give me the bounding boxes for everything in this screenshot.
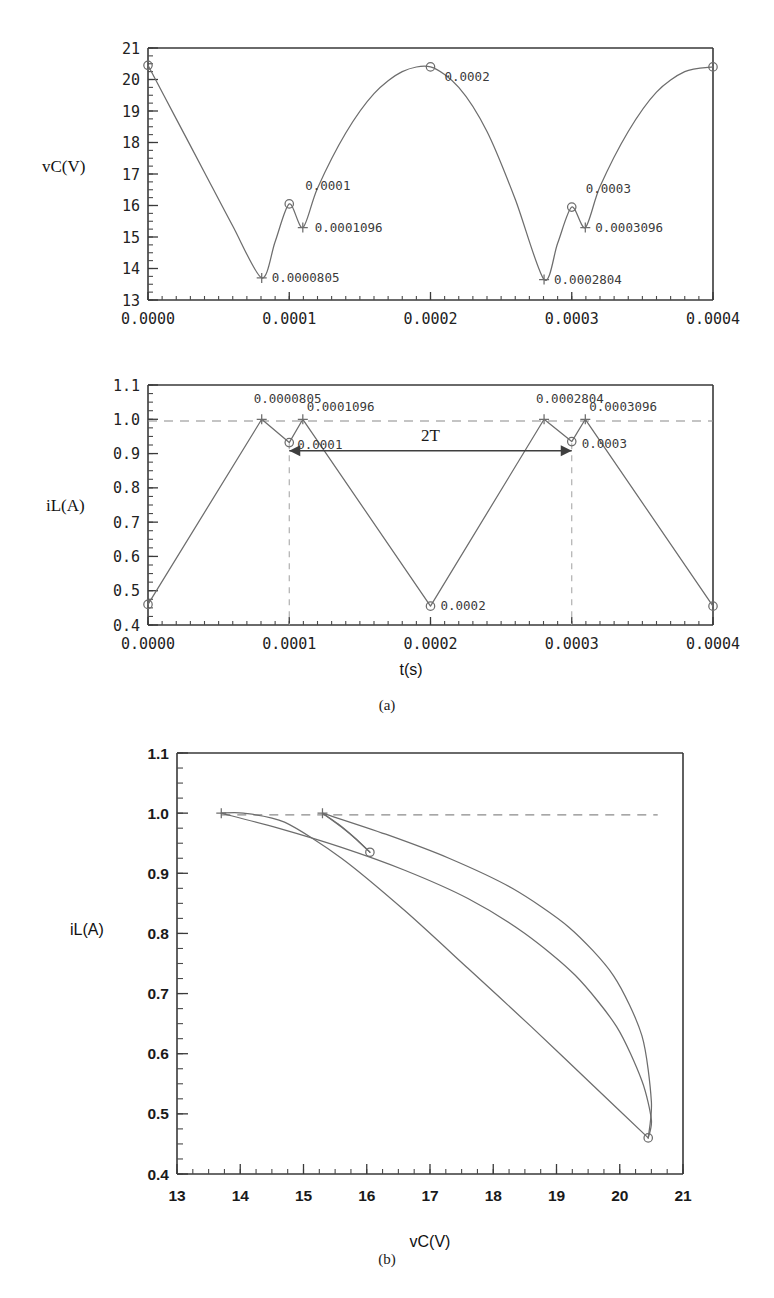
data-point-label: 0.0001 [305,178,350,193]
axis-tick-label: 0.4 [113,617,140,635]
vc-time-xticks: 0.00000.00010.00020.00030.0004 [121,292,740,328]
axis-tick-label: 1.1 [113,377,140,395]
data-point-plus [298,414,308,424]
phase-curve-charge-ramp [221,813,648,1138]
data-point-label: 0.0001 [297,437,342,452]
data-point-label: 0.0003096 [595,220,663,235]
data-point-plus [539,275,549,285]
axis-tick-label: 0.9 [113,445,140,463]
phase-curve-small-loop-down [322,813,369,852]
vc-time-curve-group [148,65,713,280]
axis-tick-label: 0.4 [147,1166,169,1183]
il-time-xlabel: t(s) [399,661,422,678]
axis-tick-label: 17 [122,166,140,184]
data-point-label: 0.0002 [441,598,486,613]
data-point-label: 0.0002804 [554,272,622,287]
axis-tick-label: 0.8 [113,479,140,497]
phase-portrait-svg: 0.40.50.60.70.80.91.01.1 131415161718192… [0,735,774,1265]
axis-tick-label: 0.0002 [403,635,457,653]
axis-tick-label: 0.7 [147,985,169,1002]
chart-il-time: 0.40.50.60.70.80.91.01.1 0.00000.00010.0… [0,345,774,690]
axis-tick-label: 13 [168,1187,186,1204]
axis-tick-label: 14 [122,260,140,278]
axis-tick-label: 0.0004 [686,310,740,328]
axis-tick-label: 1.1 [147,745,169,762]
il-time-yticks: 0.40.50.60.70.80.91.01.1 [113,377,158,635]
axis-tick-label: 0.0004 [686,635,740,653]
axis-tick-label: 18 [485,1187,503,1204]
caption-b: (b) [0,1251,774,1268]
axis-tick-label: 16 [358,1187,376,1204]
data-point-label: 0.0000805 [272,270,340,285]
il-time-svg: 0.40.50.60.70.80.91.01.1 0.00000.00010.0… [0,345,774,690]
vc-time-frame [148,48,713,300]
phase-frame [177,753,683,1174]
phase-xlabel: vC(V) [410,1233,451,1250]
phase-axes [177,753,683,1174]
data-point-label: 0.0003 [582,436,627,451]
axis-tick-label: 0.6 [147,1045,169,1062]
vc-time-annotations: 0.00010.00010960.00008050.00020.00030.00… [257,63,663,287]
axis-tick-label: 19 [548,1187,566,1204]
il-time-ylabel: iL(A) [46,496,85,515]
il-time-curve-group [148,419,713,606]
chart-vc-time: 131415161718192021 0.00000.00010.00020.0… [0,0,774,345]
axis-tick-label: 1.0 [113,411,140,429]
axis-tick-label: 13 [122,292,140,310]
axis-tick-label: 21 [122,40,140,58]
axis-tick-label: 1.0 [147,805,169,822]
axis-tick-label: 0.7 [113,514,140,532]
axis-tick-label: 14 [232,1187,250,1204]
data-point-label: 0.0001096 [315,220,383,235]
phase-xticks: 131415161718192021 [168,1164,692,1204]
axis-tick-label: 18 [122,134,140,152]
figure-root: 131415161718192021 0.00000.00010.00020.0… [0,0,774,1298]
axis-tick-label: 20 [611,1187,628,1204]
axis-tick-label: 17 [421,1187,438,1204]
period-span-arrow-right [561,445,572,456]
axis-tick-label: 0.5 [113,582,140,600]
phase-markers [216,808,652,1142]
il-time-annotations: 0.00008050.00010960.00010.00020.00028040… [254,391,657,613]
vc-time-yticks: 131415161718192021 [122,40,158,310]
axis-tick-label: 0.8 [147,925,169,942]
phase-ylabel: iL(A) [70,921,104,938]
phase-yticks: 0.40.50.60.70.80.91.01.1 [147,745,188,1183]
axis-tick-label: 19 [122,103,140,121]
il-time-xticks: 0.00000.00010.00020.00030.0004 [121,617,740,653]
data-point-label: 0.0003096 [589,399,657,414]
phase-curve-outer-return [322,813,651,1138]
data-point-label: 0.0003 [586,181,631,196]
axis-tick-label: 16 [122,197,140,215]
il-time-curve [148,419,713,606]
data-point-plus [580,414,590,424]
axis-tick-label: 0.0003 [545,310,599,328]
axis-tick-label: 0.0001 [262,635,316,653]
phase-curves [221,813,651,1138]
vc-time-svg: 131415161718192021 0.00000.00010.00020.0… [0,0,774,345]
chart-phase-portrait: 0.40.50.60.70.80.91.01.1 131415161718192… [0,735,774,1265]
axis-tick-label: 15 [295,1187,313,1204]
caption-a: (a) [0,697,774,714]
vc-time-ylabel: vC(V) [42,157,85,176]
vc-time-curve [148,65,713,280]
axis-tick-label: 0.0000 [121,310,175,328]
data-point-label: 0.0002 [445,69,490,84]
axis-tick-label: 0.6 [113,548,140,566]
period-span-label: 2T [421,426,441,445]
axis-tick-label: 0.9 [147,865,169,882]
axis-tick-label: 0.0003 [545,635,599,653]
il-time-guides [289,443,572,625]
axis-tick-label: 15 [122,229,140,247]
data-point-plus [317,808,327,818]
axis-tick-label: 0.5 [147,1105,169,1122]
data-point-label: 0.0001096 [307,399,375,414]
axis-tick-label: 21 [674,1187,692,1204]
axis-tick-label: 0.0001 [262,310,316,328]
axis-tick-label: 20 [122,71,140,89]
axis-tick-label: 0.0002 [403,310,457,328]
axis-tick-label: 0.0000 [121,635,175,653]
data-point-plus [216,808,226,818]
vc-time-axes [148,48,713,300]
phase-curve-discharge-arc [221,813,651,1138]
